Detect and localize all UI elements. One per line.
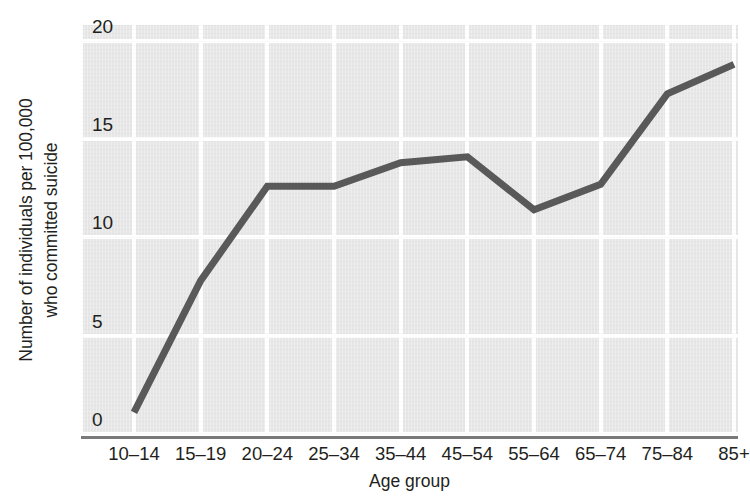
x-axis-tick-label: 15–19 (175, 442, 226, 466)
y-axis-tick-label: 0 (92, 410, 103, 429)
x-axis-tick-label: 85+ (718, 442, 749, 466)
y-axis-title-line-2: who committed suicide (39, 98, 64, 361)
x-axis-line (81, 436, 738, 439)
x-axis-tick-label: 20–24 (242, 442, 293, 466)
y-axis-tick-label: 5 (92, 312, 103, 331)
x-axis-tick-label: 45–54 (442, 442, 493, 466)
y-axis-tick-label: 10 (92, 213, 113, 232)
plot-area: 05101520 (81, 25, 738, 434)
x-axis-tick-label: 75–84 (642, 442, 693, 466)
y-axis-title: Number of individuals per 100,000 who co… (0, 0, 78, 460)
x-axis-tick-label: 10–14 (108, 442, 159, 466)
y-axis-tick-label: 20 (92, 17, 113, 36)
y-axis-tick-label: 15 (92, 115, 113, 134)
x-axis-tick-label: 25–34 (308, 442, 359, 466)
data-series-line (81, 25, 738, 434)
x-axis-tick-labels: 10–1415–1920–2425–3435–4445–5455–6465–74… (81, 442, 738, 468)
x-axis-tick-label: 35–44 (375, 442, 426, 466)
x-axis-title: Age group (81, 470, 738, 492)
x-axis-tick-label: 65–74 (575, 442, 626, 466)
y-axis-title-line-1: Number of individuals per 100,000 (14, 98, 39, 361)
x-axis-tick-label: 55–64 (508, 442, 559, 466)
